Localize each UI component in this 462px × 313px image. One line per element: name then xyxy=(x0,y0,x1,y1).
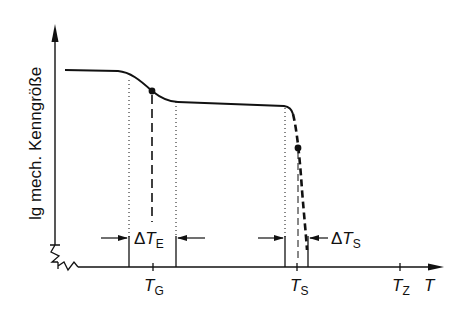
property-curve xyxy=(65,70,293,114)
delta-te-label: ΔTE xyxy=(134,229,164,251)
tick-label-ts: TS xyxy=(290,276,308,298)
x-axis-arrow-icon xyxy=(428,264,444,271)
diagram: lg mech. Kenngröße ΔTE ΔTS TG TS TZ T xyxy=(0,0,462,313)
tick-label-tz: TZ xyxy=(392,276,410,298)
softening-curve xyxy=(293,114,307,250)
y-axis-label: lg mech. Kenngröße xyxy=(26,67,45,220)
y-axis-arrow-icon xyxy=(52,24,59,42)
delta-ts-label: ΔTS xyxy=(331,229,361,251)
tick-label-tg: TG xyxy=(144,276,164,298)
diagram-canvas: lg mech. Kenngröße ΔTE ΔTS TG TS TZ T xyxy=(0,0,462,313)
y-axis xyxy=(50,24,78,270)
x-axis xyxy=(78,263,444,271)
melting-point-marker xyxy=(295,145,302,152)
x-axis-label: T xyxy=(424,276,436,295)
glass-transition-point xyxy=(149,88,156,95)
axis-break-icon xyxy=(50,245,60,262)
